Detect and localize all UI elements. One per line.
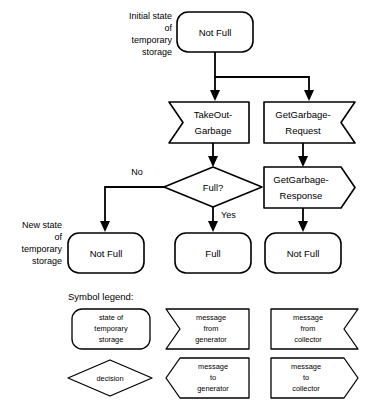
- arrowhead-no-branch: [100, 221, 110, 232]
- legend-msg-to-col-line-1: message: [291, 362, 321, 371]
- legend-msg-to-gen-line-3: generator: [197, 384, 229, 393]
- node-getgarbage-request-line-2: Request: [285, 125, 321, 136]
- legend-item-state: state of temporary storage: [72, 309, 150, 349]
- legend-state-line-2: temporary: [94, 324, 128, 333]
- node-result-not-full-right: Not Full: [265, 233, 341, 273]
- legend-state-line-3: storage: [99, 335, 124, 344]
- legend-msg-from-gen-line-1: message: [196, 313, 226, 322]
- node-getgarbage-response: GetGarbage- Response: [264, 167, 355, 208]
- node-takeout-garbage-line-2: Garbage: [195, 125, 232, 136]
- initial-state-label: Initial state of temporary storage: [129, 11, 173, 57]
- branch-label-yes: Yes: [221, 210, 236, 220]
- node-getgarbage-response-line-1: GetGarbage-: [273, 174, 328, 185]
- flowchart-diagram: Initial state of temporary storage Not F…: [0, 0, 368, 407]
- connector-request-to-response: [298, 143, 308, 167]
- legend-item-message-from-generator: message from generator: [166, 309, 249, 349]
- initial-state-line-3: temporary: [131, 35, 172, 45]
- legend-item-decision: decision: [68, 360, 152, 396]
- arrowhead-to-decision: [208, 156, 218, 167]
- legend-msg-from-gen-line-3: generator: [195, 335, 227, 344]
- new-state-line-4: storage: [32, 256, 62, 266]
- node-result-full-middle-label: Full: [205, 248, 220, 259]
- node-getgarbage-response-line-2: Response: [280, 190, 323, 201]
- legend-msg-from-col-line-3: collector: [294, 335, 322, 344]
- initial-state-line-2: of: [164, 23, 172, 33]
- node-initial-not-full-label: Not Full: [199, 27, 232, 38]
- legend-msg-from-col-line-1: message: [293, 313, 323, 322]
- connector-takeout-to-decision: [208, 143, 218, 167]
- node-getgarbage-request-line-1: GetGarbage-: [275, 109, 330, 120]
- legend-item-message-to-collector: message to collector: [271, 358, 358, 398]
- legend-item-message-from-collector: message from collector: [271, 309, 358, 349]
- arrowhead-to-response: [298, 156, 308, 167]
- legend-state-line-1: state of: [99, 313, 124, 322]
- node-decision-full-label: Full?: [203, 182, 224, 193]
- legend-item-message-to-generator: message to generator: [166, 358, 249, 398]
- node-result-not-full-left-label: Not Full: [90, 248, 123, 259]
- arrowhead-to-request: [304, 90, 314, 101]
- node-decision-full: Full?: [164, 167, 262, 207]
- connector-response-to-state: [298, 208, 308, 232]
- legend-title: Symbol legend:: [68, 291, 133, 302]
- node-result-not-full-right-label: Not Full: [287, 248, 320, 259]
- new-state-line-1: New state: [22, 220, 62, 230]
- node-getgarbage-request: GetGarbage- Request: [264, 102, 355, 143]
- legend-decision-label: decision: [96, 374, 123, 383]
- new-state-line-2: of: [54, 232, 62, 242]
- connector-yes-branch: Yes: [208, 207, 236, 232]
- node-takeout-garbage: TakeOut- Garbage: [169, 102, 249, 143]
- legend-msg-to-gen-line-2: to: [210, 373, 216, 382]
- legend-msg-to-col-line-3: collector: [292, 384, 320, 393]
- new-state-line-3: temporary: [21, 244, 62, 254]
- initial-state-line-1: Initial state: [129, 11, 172, 21]
- node-initial-not-full: Not Full: [177, 12, 253, 52]
- arrowhead-to-takeout: [210, 90, 220, 101]
- node-result-not-full-left: Not Full: [68, 233, 144, 273]
- connector-initial-split: [210, 52, 314, 101]
- initial-state-line-4: storage: [142, 47, 172, 57]
- legend-msg-to-gen-line-1: message: [198, 362, 228, 371]
- connector-no-branch: No: [100, 167, 164, 232]
- arrowhead-to-right-state: [298, 221, 308, 232]
- legend-msg-to-col-line-2: to: [303, 373, 309, 382]
- legend-msg-from-col-line-2: from: [301, 324, 316, 333]
- legend-msg-from-gen-line-2: from: [204, 324, 219, 333]
- new-state-label: New state of temporary storage: [21, 220, 62, 266]
- node-result-full-middle: Full: [175, 233, 251, 273]
- arrowhead-yes-branch: [208, 221, 218, 232]
- node-takeout-garbage-line-1: TakeOut-: [194, 109, 233, 120]
- branch-label-no: No: [131, 167, 143, 177]
